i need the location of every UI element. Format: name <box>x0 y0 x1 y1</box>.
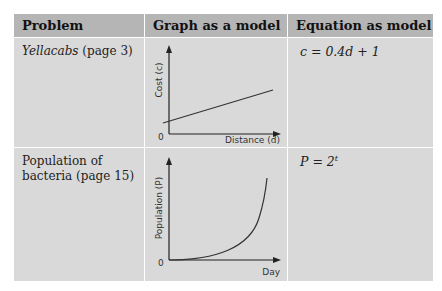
linear-graph: 0 Distance (d) Cost (c) <box>145 38 287 147</box>
problem-line2: bacteria (page 15) <box>22 169 136 184</box>
header-problem: Problem <box>14 14 144 37</box>
problem-yellacabs: Yellacabs (page 3) <box>14 38 144 147</box>
problem-name: Yellacabs <box>22 44 79 58</box>
problem-bacteria: Population of bacteria (page 15) <box>14 148 144 281</box>
x-axis-label: Day <box>262 267 280 277</box>
equation-base: P = 2 <box>300 154 335 169</box>
graph-linear: 0 Distance (d) Cost (c) <box>145 38 287 147</box>
problem-page-ref: (page 3) <box>79 44 133 58</box>
y-axis-label: Cost (c) <box>154 63 164 98</box>
header-graph: Graph as a model <box>145 14 287 37</box>
x-axis-label: Distance (d) <box>225 135 280 145</box>
origin-label: 0 <box>158 132 164 142</box>
problem-line1: Population of <box>22 154 136 169</box>
equation-exponent: t <box>335 154 338 163</box>
equation-exponential: P = 2t <box>288 148 433 281</box>
y-axis-label: Population (P) <box>154 177 164 240</box>
models-table: Problem Graph as a model Equation as mod… <box>14 14 431 279</box>
origin-label: 0 <box>158 258 164 268</box>
header-equation: Equation as model <box>288 14 433 37</box>
graph-exponential: 0 Day Population (P) <box>145 148 287 281</box>
exponential-graph: 0 Day Population (P) <box>145 148 287 281</box>
equation-linear: c = 0.4d + 1 <box>288 38 433 147</box>
